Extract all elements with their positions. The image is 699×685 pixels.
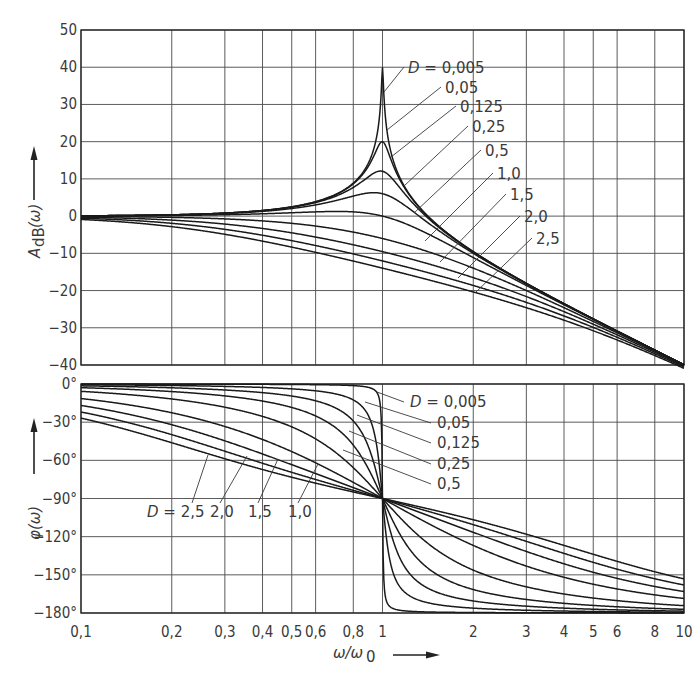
phase-ylabel: φ(ω) — [26, 506, 44, 540]
x-tick: 1 — [378, 623, 387, 641]
damping-label: D = 2,5 — [147, 503, 205, 521]
label-leader-line — [349, 431, 431, 464]
damping-label: 1,5 — [510, 186, 534, 204]
damping-label: D = 0,005 — [410, 393, 487, 411]
y-tick-phase: −180° — [33, 604, 77, 622]
xlabel-main: ω/ω — [333, 644, 363, 662]
y-tick-magnitude: 10 — [60, 170, 77, 188]
y-tick-phase: −90° — [42, 490, 77, 508]
damping-label: 0,5 — [437, 475, 461, 493]
xlabel-sub: 0 — [366, 648, 376, 666]
label-leader-line — [391, 106, 456, 157]
y-tick-phase: −150° — [33, 566, 77, 584]
phase-axis-arrow — [31, 418, 38, 474]
x-tick: 0,2 — [161, 623, 182, 641]
y-tick-magnitude: 20 — [60, 133, 77, 151]
x-tick: 0,3 — [214, 623, 235, 641]
bode-plot: 50403020100−10−20−30−400°−30°−60°−90°−12… — [0, 0, 699, 685]
x-tick: 0,4 — [252, 623, 273, 641]
damping-label: 1,0 — [497, 165, 521, 183]
label-leader-line — [343, 450, 431, 484]
y-tick-magnitude: −20 — [49, 282, 77, 300]
magnitude-ylabel-sub: dB — [30, 227, 48, 247]
label-leader-line — [384, 67, 404, 92]
damping-label: 2,0 — [524, 208, 548, 226]
y-tick-magnitude: 40 — [60, 58, 77, 76]
y-tick-magnitude: 30 — [60, 95, 77, 113]
damping-label: 0,125 — [437, 434, 480, 452]
damping-label: 0,25 — [472, 118, 505, 136]
x-axis-arrow-head — [426, 652, 440, 659]
magnitude-ylabel-main: A — [26, 248, 44, 259]
x-tick: 5 — [589, 623, 598, 641]
y-tick-phase: −30° — [42, 413, 77, 431]
x-tick: 0,5 — [281, 623, 302, 641]
x-tick: 0,1 — [70, 623, 91, 641]
magnitude-axis-label: A dB (ω) — [26, 204, 48, 259]
magnitude-axis-arrow — [31, 146, 38, 200]
damping-label: 0,25 — [437, 455, 470, 473]
x-tick: 3 — [522, 623, 531, 641]
x-axis-label: ω/ω 0 — [333, 644, 440, 666]
damping-label: 2,5 — [536, 230, 560, 248]
y-tick-magnitude: 0 — [68, 207, 77, 225]
label-leader-line — [192, 455, 208, 503]
y-tick-phase: −60° — [42, 451, 77, 469]
y-tick-phase: 0° — [62, 375, 77, 393]
y-tick-magnitude: 50 — [60, 21, 77, 39]
damping-label: 0,5 — [485, 142, 509, 160]
magnitude-ylabel-arg: (ω) — [26, 204, 44, 228]
y-tick-magnitude: −10 — [49, 244, 77, 262]
x-tick: 8 — [650, 623, 659, 641]
label-leader-line — [414, 150, 481, 213]
x-tick: 2 — [469, 623, 478, 641]
label-leader-line — [425, 173, 493, 241]
damping-label: 0,05 — [445, 79, 478, 97]
label-leader-line — [377, 392, 404, 402]
x-tick: 4 — [560, 623, 569, 641]
y-tick-magnitude: −30 — [49, 319, 77, 337]
x-tick: 6 — [613, 623, 622, 641]
label-leader-line — [387, 87, 441, 130]
x-tick: 0,6 — [305, 623, 326, 641]
damping-label: 2,0 — [210, 503, 234, 521]
x-tick: 10 — [675, 623, 692, 641]
damping-label: 0,125 — [460, 98, 503, 116]
damping-label: 0,05 — [437, 414, 470, 432]
phase-axis-label: φ(ω) — [26, 506, 44, 540]
damping-label: D = 0,005 — [408, 59, 485, 77]
damping-label: 1,5 — [248, 503, 272, 521]
label-leader-line — [220, 456, 247, 503]
x-tick: 0,8 — [343, 623, 364, 641]
label-leader-line — [404, 126, 468, 186]
damping-label: 1,0 — [288, 503, 312, 521]
y-tick-magnitude: −40 — [49, 356, 77, 374]
